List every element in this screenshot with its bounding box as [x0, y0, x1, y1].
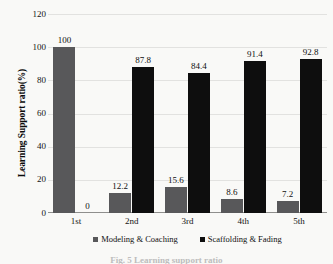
bar-value-label: 84.4	[191, 62, 207, 71]
y-tick-label: 20	[22, 175, 46, 184]
y-tick-label: 120	[22, 10, 46, 19]
legend-item[interactable]: Modeling & Coaching	[93, 234, 178, 244]
bar-chart-figure: Learning Support ratio(%) 02040608010012…	[0, 0, 333, 264]
y-tick-label: 0	[22, 209, 46, 218]
bar-value-label: 15.6	[168, 176, 184, 185]
x-tick-label: 4th	[215, 216, 271, 226]
legend-label: Scaffolding & Fading	[208, 234, 282, 244]
bar-slot: 92.8	[300, 14, 322, 213]
legend-item[interactable]: Scaffolding & Fading	[200, 234, 282, 244]
bar[interactable]	[244, 61, 266, 213]
y-tick-label: 40	[22, 142, 46, 151]
bar-value-label: 87.8	[135, 56, 151, 65]
bar-group: 8.691.4	[215, 14, 271, 213]
x-tick-label: 3rd	[160, 216, 216, 226]
bar-value-label: 92.8	[303, 48, 319, 57]
bar-value-label: 100	[58, 36, 72, 45]
bar-value-label: 0	[85, 202, 90, 211]
bar-group: 12.287.8	[104, 14, 160, 213]
bar-group: 1000	[48, 14, 104, 213]
bar-value-label: 7.2	[282, 190, 293, 199]
bar-value-label: 12.2	[112, 182, 128, 191]
y-axis-tick-labels: 020406080100120	[6, 0, 46, 264]
bar[interactable]	[188, 73, 210, 213]
legend-label: Modeling & Coaching	[101, 234, 178, 244]
x-tick-label: 5th	[271, 216, 327, 226]
figure-caption: Fig. 5 Learning support ratio	[0, 255, 333, 264]
bar-slot: 91.4	[244, 14, 266, 213]
x-tick-label: 1st	[48, 216, 104, 226]
bar-value-label: 8.6	[226, 188, 237, 197]
bar-slot: 0	[76, 14, 98, 213]
bar-slot: 8.6	[221, 14, 243, 213]
x-axis-tick-labels: 1st2nd3rd4th5th	[48, 216, 327, 226]
y-tick-label: 60	[22, 109, 46, 118]
y-tick-label: 100	[22, 43, 46, 52]
bar-slot: 100	[53, 14, 75, 213]
bar-groups: 100012.287.815.684.48.691.47.292.8	[48, 14, 327, 213]
y-tick-label: 80	[22, 76, 46, 85]
legend-swatch-icon	[200, 237, 205, 242]
bar[interactable]	[132, 67, 154, 213]
bar-slot: 84.4	[188, 14, 210, 213]
bar[interactable]	[53, 47, 75, 213]
bar-value-label: 91.4	[247, 50, 263, 59]
bar-slot: 12.2	[109, 14, 131, 213]
x-tick-label: 2nd	[104, 216, 160, 226]
bar-group: 15.684.4	[160, 14, 216, 213]
bar-group: 7.292.8	[271, 14, 327, 213]
bar[interactable]	[165, 187, 187, 213]
chart-legend: Modeling & CoachingScaffolding & Fading	[48, 234, 327, 244]
bar-slot: 87.8	[132, 14, 154, 213]
bar[interactable]	[109, 193, 131, 213]
legend-swatch-icon	[93, 237, 98, 242]
plot-area: 100012.287.815.684.48.691.47.292.8	[48, 14, 327, 213]
bar[interactable]	[277, 201, 299, 213]
bar[interactable]	[300, 59, 322, 213]
bar-slot: 15.6	[165, 14, 187, 213]
bar[interactable]	[221, 199, 243, 213]
bar-slot: 7.2	[277, 14, 299, 213]
